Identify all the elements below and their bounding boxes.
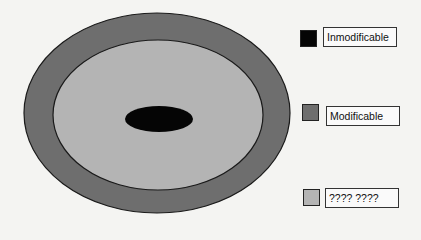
legend-swatch-light-gray <box>303 189 320 206</box>
core-ellipse <box>125 106 193 132</box>
legend-swatch-dark-gray <box>302 104 319 121</box>
legend-label: ???? ???? <box>325 188 399 208</box>
legend-swatch-black <box>300 30 317 47</box>
legend-label: Modificable <box>326 106 400 126</box>
legend-label: Inmodificable <box>323 27 397 47</box>
